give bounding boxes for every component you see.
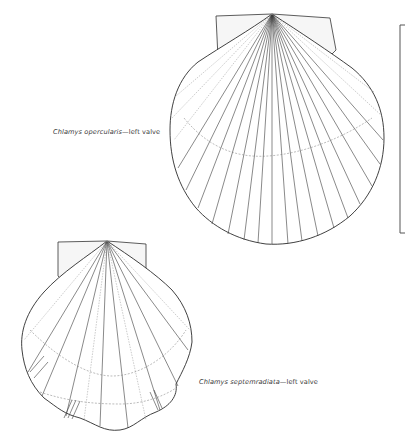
shell-opercularis-outline [170, 14, 384, 244]
scale-bar [400, 25, 405, 233]
shell-illustrations [0, 0, 416, 439]
caption-septemradiata-species: Chlamys septemradiata [199, 378, 280, 386]
illustration-plate: Chlamys opercularis—left valve Chlamys s… [0, 0, 416, 439]
shell-septemradiata-drawing [22, 241, 192, 430]
caption-septemradiata-view: left valve [287, 378, 319, 386]
caption-opercularis-species: Chlamys opercularis [53, 128, 122, 136]
caption-septemradiata-separator: — [280, 378, 287, 386]
caption-opercularis-separator: — [122, 128, 129, 136]
caption-septemradiata: Chlamys septemradiata—left valve [199, 378, 318, 386]
shell-opercularis-drawing [170, 14, 384, 244]
caption-opercularis: Chlamys opercularis—left valve [53, 128, 160, 136]
shell-septemradiata-outline [22, 241, 192, 430]
caption-opercularis-view: left valve [129, 128, 161, 136]
